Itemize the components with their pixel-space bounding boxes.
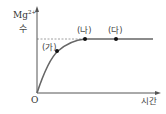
point-da bbox=[114, 37, 118, 41]
x-axis-label: 시간 bbox=[141, 96, 157, 106]
chart: (가) (나) (다) Mg2+ 수 O 시간 bbox=[0, 0, 166, 114]
point-label-na: (나) bbox=[77, 25, 92, 35]
origin-label: O bbox=[31, 95, 38, 105]
x-axis-arrow-icon bbox=[155, 91, 161, 95]
y-axis-label: Mg2+ bbox=[13, 9, 36, 20]
point-na bbox=[83, 37, 87, 41]
y-axis-label-line2: 수 bbox=[19, 24, 27, 34]
point-label-ga: (가) bbox=[42, 42, 57, 52]
point-label-da: (다) bbox=[108, 25, 123, 35]
